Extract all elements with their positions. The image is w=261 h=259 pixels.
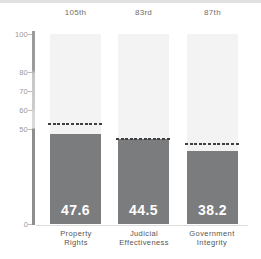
y-tick-mark bbox=[28, 72, 32, 73]
y-tick-mark bbox=[28, 224, 32, 225]
y-tick-mark bbox=[28, 129, 32, 130]
chart-column-property-rights: 47.6 bbox=[50, 34, 101, 224]
top-border-strip bbox=[0, 0, 261, 3]
chart-column-judicial-effectiveness: 44.5 bbox=[118, 34, 169, 224]
y-tick-mark bbox=[28, 110, 32, 111]
category-label-government-integrity: Government Integrity bbox=[176, 229, 248, 247]
bar-property-rights: 47.6 bbox=[50, 134, 101, 224]
bar-judicial-effectiveness: 44.5 bbox=[118, 139, 169, 224]
y-axis-line bbox=[32, 31, 35, 225]
chart-column-government-integrity: 38.2 bbox=[187, 34, 238, 224]
rule-of-law-bar-chart: 105th 83rd 87th 100 80 70 60 50 0 47.6 4… bbox=[0, 0, 261, 259]
benchmark-dash-line bbox=[48, 123, 103, 125]
rank-label-judicial-effectiveness: 83rd bbox=[118, 8, 169, 17]
category-label-judicial-effectiveness: Judicial Effectiveness bbox=[108, 229, 180, 247]
benchmark-dash-line bbox=[116, 138, 171, 140]
rank-label-property-rights: 105th bbox=[50, 8, 101, 17]
y-tick-label-80: 80 bbox=[6, 68, 28, 77]
x-axis-baseline bbox=[36, 225, 248, 226]
y-tick-mark bbox=[28, 91, 32, 92]
bar-value-label: 38.2 bbox=[187, 202, 238, 218]
rank-label-government-integrity: 87th bbox=[187, 8, 238, 17]
bar-value-label: 47.6 bbox=[50, 202, 101, 218]
bar-government-integrity: 38.2 bbox=[187, 151, 238, 224]
benchmark-dash-line bbox=[185, 143, 240, 145]
y-tick-label-0: 0 bbox=[6, 220, 28, 229]
y-tick-label-60: 60 bbox=[6, 106, 28, 115]
y-tick-label-50: 50 bbox=[6, 125, 28, 134]
y-tick-label-70: 70 bbox=[6, 87, 28, 96]
y-tick-mark bbox=[28, 34, 32, 35]
category-label-property-rights: Property Rights bbox=[40, 229, 112, 247]
bar-value-label: 44.5 bbox=[118, 202, 169, 218]
y-tick-label-100: 100 bbox=[6, 30, 28, 39]
